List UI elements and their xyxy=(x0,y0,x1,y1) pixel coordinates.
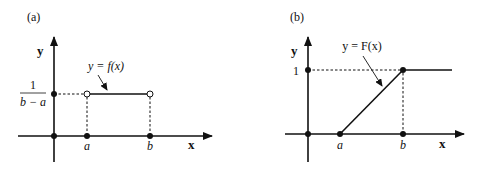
panel-b-dot-origin xyxy=(305,131,311,137)
panel-a-dot-origin xyxy=(51,133,57,139)
panel-b-label: (b) xyxy=(290,10,304,24)
panel-a-tick-b: b xyxy=(147,139,153,153)
panel-a-y-level-denominator: b − a xyxy=(20,95,46,109)
panel-b-tick-b: b xyxy=(400,138,406,152)
panel-a-tick-a: a xyxy=(84,139,90,153)
panel-a-open-endpoint-b xyxy=(147,91,153,97)
panel-b-tick-a: a xyxy=(337,138,343,152)
panel-b-dot-y-level xyxy=(305,67,311,73)
panel-a-dot-y-level xyxy=(51,91,57,97)
panel-a-curve-label: y = f(x) xyxy=(87,59,124,73)
panel-b-cdf-ramp xyxy=(340,70,403,134)
figure: (a) y x 1 b − a a b y = f(x) (b) xyxy=(0,0,480,171)
panel-a-label: (a) xyxy=(27,10,40,24)
panel-b-x-axis-label: x xyxy=(439,136,446,151)
panel-b-dot-corner-b xyxy=(400,67,406,73)
panel-b-dot-b xyxy=(400,131,406,137)
panel-a: (a) y x 1 b − a a b y = f(x) xyxy=(18,10,212,162)
panel-a-open-endpoint-a xyxy=(84,91,90,97)
panel-b-y-axis-label: y xyxy=(291,43,298,58)
panel-b-curve-label: y = F(x) xyxy=(342,39,381,53)
panel-a-x-axis-label: x xyxy=(188,137,195,152)
panel-b-y-level-label: 1 xyxy=(293,64,299,78)
panel-a-y-axis-label: y xyxy=(37,43,44,58)
panel-b-pointer-arrow xyxy=(363,56,382,86)
panel-a-y-level-numerator: 1 xyxy=(30,78,36,92)
panel-b-dot-a xyxy=(337,131,343,137)
panel-b: (b) y x 1 a b y = F(x) xyxy=(285,10,464,162)
panel-a-pointer-arrow xyxy=(98,75,107,90)
